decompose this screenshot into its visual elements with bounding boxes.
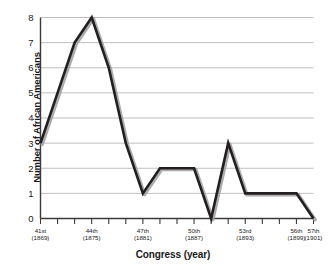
y-tick-label: 0 <box>28 213 33 224</box>
x-tick-label-congress: 50th <box>188 227 201 234</box>
x-tick-label-congress: 44th <box>86 227 99 234</box>
y-tick-label: 7 <box>28 37 33 48</box>
x-tick-label-congress: 47th <box>137 227 150 234</box>
x-tick-label-year: (1875) <box>83 234 101 241</box>
x-tick-label-year: (1887) <box>185 234 203 241</box>
x-tick-label-year: (1893) <box>236 234 254 241</box>
y-tick-label: 6 <box>28 62 33 73</box>
x-tick-label-year: (1881) <box>134 234 152 241</box>
y-tick-label: 4 <box>28 112 33 123</box>
y-tick-label: 2 <box>28 163 33 174</box>
x-tick-label-congress: 41st <box>35 227 47 234</box>
x-tick-label-congress: 57th <box>307 227 320 234</box>
y-tick-label: 3 <box>28 138 33 149</box>
x-tick-label-congress: 53rd <box>239 227 252 234</box>
data-series-group <box>41 18 316 220</box>
y-tick-label: 1 <box>28 188 33 199</box>
line-chart-plot: 012345678 41st(1869)44th(1875)47th(1881)… <box>0 0 333 270</box>
x-axis-title: Congress (year) <box>33 249 313 260</box>
x-tick-label-year: (1899) <box>287 234 305 241</box>
series-line-shadow <box>42 19 315 220</box>
x-tick-label-congress: 56th <box>290 227 303 234</box>
x-axis-tick-labels-group: 41st(1869)44th(1875)47th(1881)50th(1887)… <box>32 227 323 242</box>
y-tick-label: 8 <box>28 12 33 23</box>
x-axis-ticks-group <box>41 219 314 225</box>
chart-figure: Number of African Americans 012345678 41… <box>0 0 333 270</box>
x-tick-label-year: (1869) <box>32 234 50 241</box>
y-tick-label: 5 <box>28 87 33 98</box>
x-tick-label-year: (1901) <box>305 234 323 241</box>
y-axis-ticks-group: 012345678 <box>28 12 33 224</box>
